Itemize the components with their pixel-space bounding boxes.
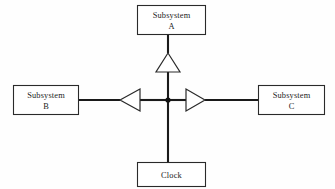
subsystem-c-label-line1: Subsystem [273,91,311,100]
diagram-canvas: Subsystem A Subsystem B Subsystem C Cloc… [0,0,335,189]
subsystem-c-label-line2: C [289,102,295,111]
buffer-right-icon [186,89,205,111]
subsystem-a-label-line2: A [168,22,174,31]
buffer-up-icon [156,53,180,72]
subsystem-b-label-line2: B [43,102,49,111]
clock-distribution-diagram: Subsystem A Subsystem B Subsystem C Cloc… [0,0,335,189]
subsystem-a-label-line1: Subsystem [153,11,191,20]
clock-label: Clock [161,171,182,180]
buffer-left-icon [120,89,140,111]
subsystem-b-label-line1: Subsystem [27,91,65,100]
junction-dot [165,97,170,102]
